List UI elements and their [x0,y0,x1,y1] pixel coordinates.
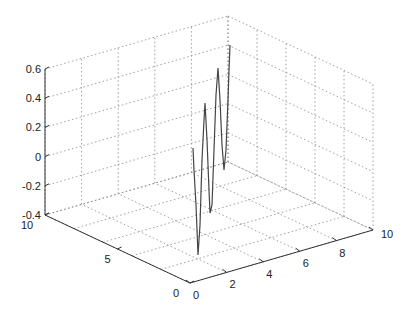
x-tick-label: 2 [230,278,236,290]
x-tick-label: 6 [303,257,309,269]
z-tick-label: 0 [35,151,41,163]
plot-3d: -0.4-0.200.20.40.605100246810 [0,0,410,312]
tick-labels: -0.4-0.200.20.40.605100246810 [21,63,393,301]
z-tick-label: -0.2 [22,180,41,192]
z-tick-label: 0.4 [26,92,41,104]
z-tick-label: 0.6 [26,63,41,75]
y-tick-label: 5 [104,253,110,265]
y-tick-label: 10 [21,219,33,231]
z-tick-label: 0.2 [26,121,41,133]
data-trace [193,45,230,255]
x-tick-label: 10 [381,228,393,240]
x-tick-label: 4 [266,268,272,280]
x-tick-label: 0 [193,289,199,301]
y-tick-label: 0 [173,287,179,299]
x-tick-label: 8 [339,247,345,259]
grid-lines [45,16,373,283]
